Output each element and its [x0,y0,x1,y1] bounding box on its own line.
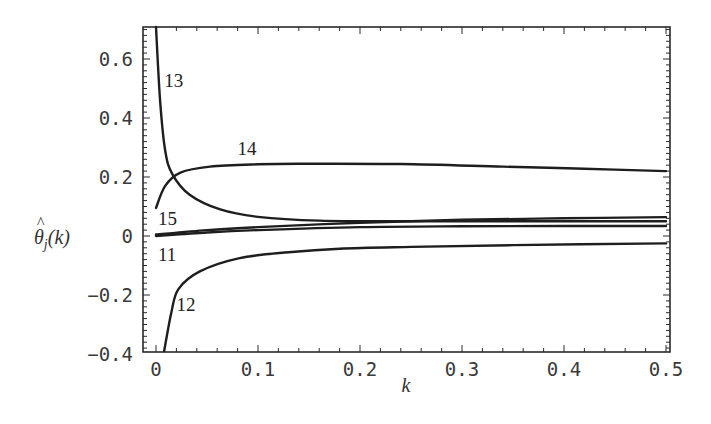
y-tick-label: −0.4 [87,343,133,365]
x-tick-labels: 00.10.20.30.40.5 [150,358,683,380]
axis-ticks [143,27,670,352]
x-tick-label: 0.4 [547,358,581,380]
y-tick-labels: −0.4−0.200.20.40.6 [87,48,133,365]
curve-label-12: 12 [176,294,195,315]
curve-label-15: 15 [158,208,177,229]
curve-13 [156,27,666,221]
y-axis-label-arg: (k) [48,226,71,249]
curve-12 [164,243,666,351]
curve-14 [156,164,666,208]
x-tick-label: 0.2 [343,358,377,380]
line-chart: 00.10.20.30.40.5 −0.4−0.200.20.40.6 1314… [0,0,711,424]
plot-frame [143,27,670,352]
y-axis-label: θj(k) ^ [34,214,70,252]
curve-label-13: 13 [164,70,183,91]
y-tick-label: 0.4 [99,107,133,129]
curve-label-11: 11 [158,244,176,265]
x-tick-label: 0.5 [649,358,683,380]
x-tick-label: 0 [150,358,161,380]
x-tick-label: 0.1 [241,358,275,380]
x-axis-label: k [402,374,412,396]
y-tick-label: 0 [122,225,133,247]
curve-labels: 1314151112 [158,70,257,315]
data-curves [156,27,666,351]
y-tick-label: 0.2 [99,166,133,188]
y-tick-label: 0.6 [99,48,133,70]
y-axis-label-hat: ^ [37,214,45,231]
x-tick-label: 0.3 [445,358,479,380]
y-tick-label: −0.2 [87,284,133,306]
curve-label-14: 14 [238,138,258,159]
